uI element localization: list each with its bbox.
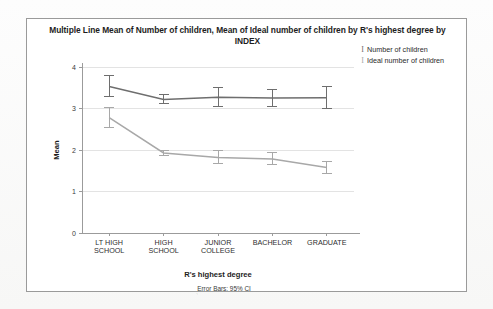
y-tick-label: 2	[72, 147, 76, 154]
plot-area: 01234 LT HIGHSCHOOLHIGHSCHOOLJUNIORCOLLE…	[27, 19, 468, 293]
chart-card: Multiple Line Mean of Number of children…	[26, 18, 467, 292]
x-category-label: SCHOOL	[148, 246, 178, 255]
x-category-label: SCHOOL	[94, 246, 124, 255]
x-category-label: BACHELOR	[253, 238, 293, 247]
line-chart-svg: 01234 LT HIGHSCHOOLHIGHSCHOOLJUNIORCOLLE…	[27, 19, 468, 293]
x-category-label: GRADUATE	[307, 238, 347, 247]
chart-footnote: Error Bars: 95% CI	[197, 285, 251, 292]
footnote-text: Error Bars: 95% CI	[197, 285, 251, 292]
grid-lines	[82, 67, 354, 192]
y-tick-label: 1	[72, 188, 76, 195]
y-tick-label: 4	[72, 64, 76, 71]
x-category-labels: LT HIGHSCHOOLHIGHSCHOOLJUNIORCOLLEGEBACH…	[94, 233, 347, 255]
y-tick-label: 0	[72, 230, 76, 237]
x-axis-title: R's highest degree	[184, 270, 252, 279]
series-error-bars	[104, 75, 332, 173]
y-axis-title: Mean	[52, 140, 61, 160]
x-category-label: COLLEGE	[201, 246, 235, 255]
y-tick-label: 3	[72, 105, 76, 112]
y-tick-labels: 01234	[72, 64, 82, 237]
